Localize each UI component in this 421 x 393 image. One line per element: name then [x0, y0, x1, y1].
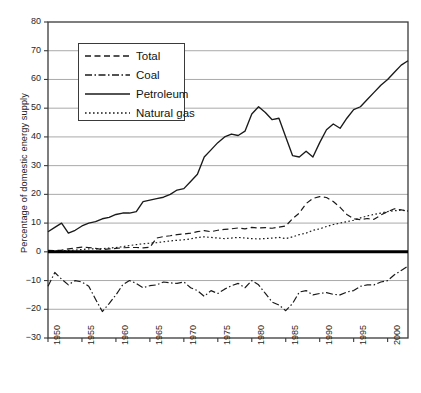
x-tick-label: 1955	[86, 325, 96, 345]
x-tick-label: 1970	[188, 325, 198, 345]
y-tick-label: 30	[15, 160, 41, 170]
x-tick-label: 1990	[324, 325, 334, 345]
x-tick-label: 2000	[392, 325, 402, 345]
y-tick-label: 20	[15, 188, 41, 198]
x-tick-label: 1995	[358, 325, 368, 345]
chart-figure: Percentage of domestic energy supply Tot…	[0, 0, 421, 393]
x-tick-label: 1965	[154, 325, 164, 345]
x-tick-label: 1950	[52, 325, 62, 345]
series-line-coal	[48, 266, 408, 311]
y-tick-label: 70	[15, 45, 41, 55]
legend-line-swatch-icon	[84, 68, 132, 82]
legend-label: Petroleum	[132, 88, 188, 100]
x-tick-label: 1980	[256, 325, 266, 345]
legend-label: Coal	[132, 69, 160, 81]
legend-entry-petroleum: Petroleum	[84, 84, 180, 103]
legend-line-swatch-icon	[84, 106, 132, 120]
y-tick-label: 0	[15, 246, 41, 256]
x-tick-label: 1960	[120, 325, 130, 345]
series-line-natural-gas	[48, 210, 408, 251]
chart-legend: TotalCoalPetroleumNatural gas	[78, 43, 185, 121]
y-tick-label: 50	[15, 102, 41, 112]
y-tick-label: 10	[15, 217, 41, 227]
y-tick-label: −30	[15, 332, 41, 342]
legend-line-swatch-icon	[84, 87, 132, 101]
legend-label: Natural gas	[132, 107, 195, 119]
y-tick-label: −10	[15, 275, 41, 285]
legend-entry-total: Total	[84, 46, 180, 65]
legend-entry-natural-gas: Natural gas	[84, 103, 180, 122]
y-tick-label: −20	[15, 303, 41, 313]
x-tick-label: 1975	[222, 325, 232, 345]
series-line-total	[48, 197, 408, 251]
y-tick-label: 60	[15, 73, 41, 83]
x-tick-label: 1985	[290, 325, 300, 345]
y-tick-label: 40	[15, 131, 41, 141]
y-tick-label: 80	[15, 16, 41, 26]
legend-line-swatch-icon	[84, 49, 132, 63]
legend-label: Total	[132, 50, 160, 62]
legend-entry-coal: Coal	[84, 65, 180, 84]
